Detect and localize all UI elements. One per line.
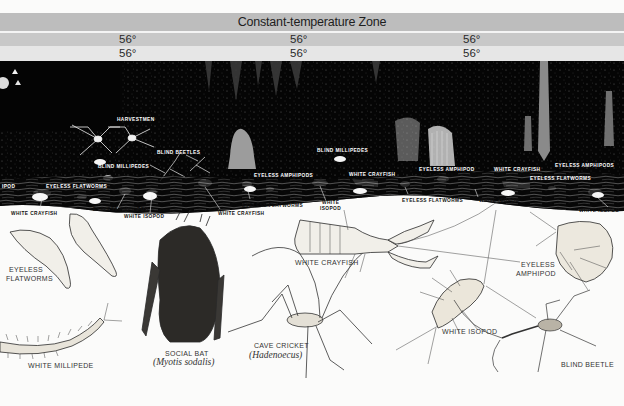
temp-reading: 56° xyxy=(463,33,480,46)
specimen-scientific-bat: (Myotis sodalis) xyxy=(153,357,214,367)
label-eyeless-flatworms: EYELESS FLATWORMS xyxy=(402,198,463,204)
label-white-crayfish: WHITE CRAYFISH xyxy=(218,211,264,217)
label-blind-millipedes: BLIND MILLIPEDES xyxy=(98,164,149,169)
label-blind-beetles: BLIND BEETLES xyxy=(157,150,200,155)
label-eyeless-amphipods: EYELESS AMPHIPODS xyxy=(555,163,614,168)
label-white-crayfish: WHITE CRAYFISH xyxy=(494,167,540,172)
flatworm-drawing xyxy=(69,214,116,277)
temp-reading: 56° xyxy=(463,46,480,61)
specimen-label-beetle: BLIND BEETLE xyxy=(561,360,614,369)
cave-background-illustration xyxy=(0,61,624,221)
label-white-isopod: WHITE ISOPOD xyxy=(124,214,164,220)
specimen-label-cricket: CAVE CRICKET xyxy=(254,341,309,350)
label-white-crayfish: WHITE CRAYFISH xyxy=(11,211,57,217)
label-eyeless-amphipod: EYELESS AMPHIPOD xyxy=(419,167,475,172)
specimen-label-millipede: WHITE MILLIPEDE xyxy=(28,361,94,370)
specimen-label-flatworms: FLATWORMS xyxy=(6,274,53,283)
label-white-isopod: WHITE ISOPOD xyxy=(579,208,619,214)
temp-reading: 56° xyxy=(119,33,136,46)
label-blind-millipedes: BLIND MILLIPEDES xyxy=(317,148,368,153)
bat-drawing xyxy=(158,226,220,342)
amphipod-drawing xyxy=(530,212,613,290)
label-harvestmen: HARVESTMEN xyxy=(117,117,155,122)
specimen-scientific-cricket: (Hadenoecus) xyxy=(249,350,302,360)
label-isopod-cut: IPOD xyxy=(2,184,15,189)
label-white-isopod: WHITE ISOPOD xyxy=(479,198,519,204)
label-eyeless-flatworms: EYELESS FLATWORMS xyxy=(46,184,107,189)
millipede-drawing xyxy=(0,318,104,354)
label-eyeless-flatworms: EYELESS FLATWORMS xyxy=(242,203,303,209)
specimen-label-crayfish: WHITE CRAYFISH xyxy=(295,258,359,267)
zone-title-band: Constant-temperature Zone xyxy=(0,13,624,31)
zone-title: Constant-temperature Zone xyxy=(238,15,387,29)
label-eyeless-flatworms: EYELESS FLATWORMS xyxy=(530,176,591,181)
specimen-label-flatworms: EYELESS xyxy=(9,265,43,274)
label-white-isopod: WHITE xyxy=(322,200,339,206)
specimen-label-amphipod: AMPHIPOD xyxy=(516,269,556,278)
specimen-label-isopod: WHITE ISOPOD xyxy=(442,327,497,336)
cave-scene xyxy=(0,61,624,221)
temp-reading: 56° xyxy=(119,46,136,61)
temperature-row-2: 56° 56° 56° xyxy=(0,46,624,61)
temperature-row-1: 56° 56° 56° xyxy=(0,33,624,46)
temp-reading: 56° xyxy=(290,33,307,46)
label-white-isopod: ISOPOD xyxy=(320,206,341,212)
specimen-label-amphipod: EYELESS xyxy=(521,260,555,269)
isopod-drawing xyxy=(396,210,536,364)
label-eyeless-amphipod: EYELESS AMPHIPOD xyxy=(93,207,149,213)
label-white-crayfish: WHITE CRAYFISH xyxy=(349,172,395,177)
temp-reading: 56° xyxy=(290,46,307,61)
label-eyeless-amphipods: EYELESS AMPHIPODS xyxy=(254,173,313,178)
